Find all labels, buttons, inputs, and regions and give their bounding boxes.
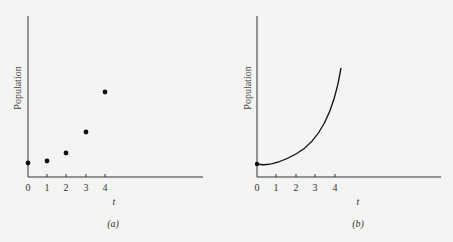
growth-curve: [257, 68, 341, 165]
start-point: [255, 162, 259, 166]
tick-label: 0: [255, 182, 260, 193]
tick-label: 3: [313, 182, 318, 193]
tick-label: 0: [26, 182, 31, 193]
panel-b: 0 1 2 3 4 t Population (b): [242, 16, 441, 230]
tick-label: 3: [84, 182, 89, 193]
tick-label: 2: [294, 182, 299, 193]
tick-label: 1: [45, 182, 50, 193]
y-axis-title: Population: [242, 66, 253, 109]
tick-label: 1: [274, 182, 279, 193]
x-axis-title: t: [357, 196, 360, 207]
figure: 0 1 2 3 4 t Population (a) 0 1 2 3 4 t P…: [0, 0, 453, 242]
y-axis-title: Population: [12, 66, 23, 109]
caption-b: (b): [352, 218, 364, 230]
caption-a: (a): [107, 218, 119, 230]
tick-label: 4: [103, 182, 108, 193]
data-points: [26, 90, 108, 166]
x-axis-title: t: [113, 196, 116, 207]
tick-label: 2: [64, 182, 69, 193]
panel-a: 0 1 2 3 4 t Population (a): [12, 16, 203, 230]
tick-label: 4: [333, 182, 338, 193]
